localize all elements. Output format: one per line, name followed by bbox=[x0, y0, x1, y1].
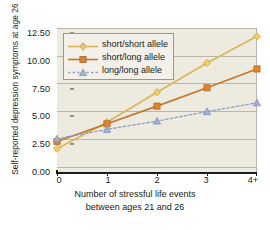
x-axis-title-line2: between ages 21 and 26 bbox=[0, 201, 270, 214]
legend-label: short/short allele bbox=[102, 39, 168, 49]
legend-label: long/long allele bbox=[102, 65, 162, 75]
data-point-square bbox=[254, 66, 260, 72]
legend-label: short/long allele bbox=[102, 52, 165, 62]
x-axis-title-line1: Number of stressful life events bbox=[0, 188, 270, 201]
data-point-diamond bbox=[153, 89, 160, 96]
data-point-diamond bbox=[203, 59, 210, 66]
legend-swatch-long-long bbox=[68, 64, 98, 75]
chart-figure: Self-reported depression symptoms at age… bbox=[0, 0, 270, 230]
legend-item-long-long[interactable]: long/long allele bbox=[68, 63, 168, 76]
legend-swatch-short-long bbox=[68, 51, 98, 62]
legend-item-short-short[interactable]: short/short allele bbox=[68, 37, 168, 50]
data-point-diamond bbox=[253, 33, 260, 40]
data-point-square bbox=[204, 85, 210, 91]
data-point-triangle bbox=[153, 117, 160, 124]
legend-swatch-short-short bbox=[68, 38, 98, 49]
data-point-triangle bbox=[253, 99, 260, 106]
data-point-diamond bbox=[53, 145, 60, 152]
legend-item-short-long[interactable]: short/long allele bbox=[68, 50, 168, 63]
x-axis-title: Number of stressful life events between … bbox=[0, 188, 270, 213]
data-point-square bbox=[154, 103, 160, 109]
legend: short/short allele short/long allele lon… bbox=[63, 33, 174, 80]
